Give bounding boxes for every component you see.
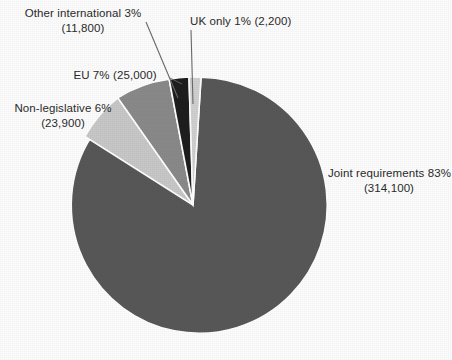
slice-label-uk-only-line1: UK only 1% (2,200) <box>190 14 308 29</box>
slice-label-joint-requirements-line1: Joint requirements 83% <box>328 166 450 181</box>
slice-label-uk-only: UK only 1% (2,200) <box>190 14 308 29</box>
slice-label-eu: EU 7% (25,000) <box>58 68 172 83</box>
pie-chart-figure: Other international 3% (11,800) UK only … <box>0 0 452 360</box>
slice-label-other-international-line2: (11,800) <box>8 21 158 36</box>
slice-label-other-international-line1: Other international 3% <box>8 6 158 21</box>
slice-label-joint-requirements: Joint requirements 83% (314,100) <box>328 166 450 196</box>
slice-label-eu-line1: EU 7% (25,000) <box>58 68 172 83</box>
slice-label-non-legislative-line2: (23,900) <box>2 116 124 131</box>
slice-label-non-legislative: Non-legislative 6% (23,900) <box>2 101 124 131</box>
slice-label-other-international: Other international 3% (11,800) <box>8 6 158 36</box>
slice-label-joint-requirements-line2: (314,100) <box>328 181 450 196</box>
slice-label-non-legislative-line1: Non-legislative 6% <box>2 101 124 116</box>
